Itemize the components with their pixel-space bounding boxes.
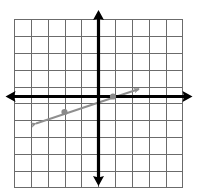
y-axis-arrow-up-icon	[93, 10, 104, 20]
coordinate-plane-figure	[0, 0, 198, 192]
x-axis-arrow-right-icon	[183, 91, 193, 102]
plot-point-1	[61, 109, 67, 115]
plot-point-2	[110, 93, 116, 99]
coordinate-plane-svg	[0, 0, 198, 192]
x-axis-arrow-left-icon	[6, 91, 16, 102]
